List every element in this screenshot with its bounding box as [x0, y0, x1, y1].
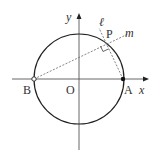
point-a-label: A	[124, 83, 133, 97]
x-axis-arrow	[143, 77, 149, 82]
origin-label: O	[66, 83, 75, 97]
x-axis-label: x	[138, 83, 145, 97]
point-b-label: B	[23, 83, 31, 97]
line-m	[34, 34, 128, 79]
circle-diagram: y x O B A P ℓ m	[0, 0, 156, 151]
y-axis-label: y	[65, 10, 72, 24]
line-m-label: m	[125, 26, 134, 40]
line-l-label: ℓ	[99, 15, 104, 29]
point-a-marker	[121, 77, 125, 81]
point-b-marker	[32, 77, 36, 81]
point-p-label: P	[106, 27, 113, 41]
y-axis-arrow	[77, 13, 82, 19]
